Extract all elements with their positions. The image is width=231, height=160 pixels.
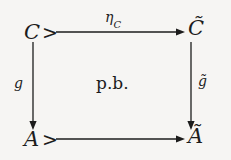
- node-top-left: C: [24, 22, 40, 43]
- node-bottom-right: Ã: [188, 126, 203, 147]
- diagram-canvas: C > C̃ A > Ã ηC g g̃ p.b.: [0, 0, 231, 160]
- right-arrow-label: g̃: [198, 74, 207, 88]
- top-arrow-label-subscript: C: [113, 19, 121, 30]
- node-bottom-left: A: [24, 129, 39, 150]
- bottom-arrow: [56, 135, 185, 142]
- node-top-right: C̃: [188, 18, 204, 39]
- left-arrow-label: g: [14, 76, 23, 90]
- bottom-mono-tail: >: [42, 130, 58, 149]
- pullback-label: p.b.: [96, 75, 129, 92]
- top-mono-tail: >: [42, 23, 58, 42]
- top-arrow-label: ηC: [105, 10, 121, 28]
- left-arrow: [29, 42, 36, 130]
- right-arrow: [187, 42, 194, 130]
